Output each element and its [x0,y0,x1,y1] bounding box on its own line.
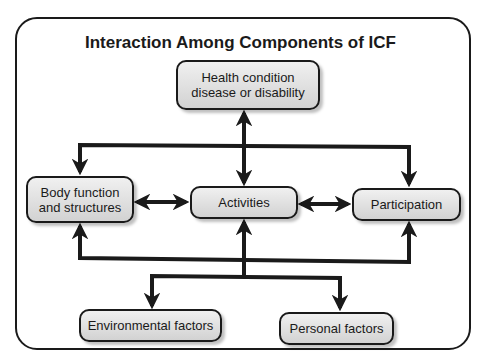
health-line-1: Health condition [191,70,304,85]
node-personal-factors: Personal factors [279,312,394,345]
body-line-2: and structures [39,200,121,215]
node-activities: Activities [190,186,298,219]
node-environmental-factors: Environmental factors [79,309,222,342]
node-health-condition: Health conditiondisease or disability [176,60,320,110]
activities-label: Activities [218,195,269,210]
health-line-2: disease or disability [191,85,304,100]
personal-label: Personal factors [290,321,384,336]
body-line-1: Body function [39,185,121,200]
environmental-label: Environmental factors [88,318,214,333]
node-body-function: Body functionand structures [26,176,134,223]
node-participation: Participation [352,188,461,221]
participation-label: Participation [371,197,443,212]
